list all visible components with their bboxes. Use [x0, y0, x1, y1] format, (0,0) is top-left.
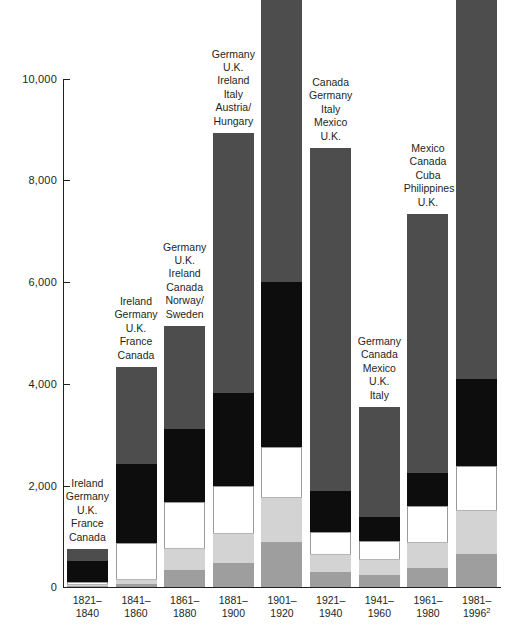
bar-segment-segment-5-top	[213, 133, 254, 393]
bar-segment-segment-1-bottom	[261, 542, 302, 587]
x-axis-label-4: 1881–1900	[209, 594, 258, 621]
x-axis-label-7: 1941–1960	[355, 594, 404, 621]
bar-18211840	[67, 549, 108, 587]
bar-segment-segment-1-bottom	[164, 570, 205, 587]
country-label: U.K.	[160, 254, 209, 267]
x-axis-label-8: 1961–1980	[404, 594, 453, 621]
country-label: Canada	[160, 281, 209, 294]
bar-caption-3: GermanyU.K.IrelandCanadaNorway/Sweden	[160, 241, 209, 321]
country-label: Philippines	[404, 182, 453, 195]
bar-segment-segment-4	[67, 561, 108, 582]
bar-segment-segment-1-bottom	[407, 568, 448, 587]
x-label-line-2: 1920	[258, 607, 307, 620]
bar-segment-segment-5-top	[407, 214, 448, 473]
y-tick-label-10000: 10,000	[22, 74, 57, 85]
bar-segment-segment-4	[213, 393, 254, 486]
x-label-line-2: 1860	[112, 607, 161, 620]
bar-segment-segment-4	[359, 517, 400, 541]
bar-segment-segment-4	[407, 473, 448, 506]
footnote-marker: 2	[486, 606, 490, 615]
country-label: Canada	[355, 348, 404, 361]
country-label: Canada	[63, 531, 112, 544]
bar-segment-segment-3	[213, 486, 254, 533]
bar-segment-segment-5-top	[116, 367, 157, 464]
bar-segment-segment-2	[261, 497, 302, 542]
country-label: Austria/	[209, 101, 258, 114]
x-axis-label-3: 1861–1880	[160, 594, 209, 621]
bar-segment-segment-3	[456, 466, 497, 510]
country-label: U.K.	[209, 61, 258, 74]
bar-caption-1: IrelandGermanyU.K.FranceCanada	[63, 477, 112, 544]
y-tick-label-2000: 2,000	[28, 481, 57, 492]
bar-segment-segment-4	[261, 282, 302, 447]
x-label-line-2: 1940	[306, 607, 355, 620]
x-axis-label-9: 1981–19962	[452, 594, 501, 621]
bar-segment-segment-3	[164, 502, 205, 548]
bar-caption-6: CanadaGermanyItalyMexicoU.K.	[306, 76, 355, 143]
bar-19811996	[456, 0, 497, 587]
bar-segment-segment-3	[310, 532, 351, 554]
country-label: U.K.	[355, 375, 404, 388]
bar-segment-segment-5-top	[359, 407, 400, 517]
bar-segment-segment-4	[116, 464, 157, 543]
x-label-line-1: 1981–	[452, 594, 501, 607]
x-label-line-2: 1840	[63, 607, 112, 620]
country-label: Cuba	[404, 169, 453, 182]
x-axis-label-6: 1921–1940	[306, 594, 355, 621]
country-label: Ireland	[209, 74, 258, 87]
country-label: Germany	[306, 89, 355, 102]
country-label: Italy	[306, 103, 355, 116]
immigration-stacked-bar-chart: 10,000 8,000 6,000 4,000 2,000 0 Ireland…	[0, 0, 509, 629]
country-label: Germany	[160, 241, 209, 254]
country-label: Mexico	[306, 116, 355, 129]
bar-18811900	[213, 133, 254, 587]
x-label-line-2: 1880	[160, 607, 209, 620]
bar-segment-segment-2	[359, 559, 400, 575]
x-axis-label-1: 1821–1840	[63, 594, 112, 621]
country-label: Sweden	[160, 308, 209, 321]
country-label: Germany	[63, 490, 112, 503]
bar-segment-segment-1-bottom	[116, 584, 157, 587]
bar-segment-segment-3	[261, 447, 302, 497]
x-label-line-1: 1881–	[209, 594, 258, 607]
country-label: Germany	[112, 308, 161, 321]
y-tick-label-4000: 4,000	[28, 379, 57, 390]
country-label: France	[112, 335, 161, 348]
country-label: Ireland	[160, 267, 209, 280]
bar-caption-8: MexicoCanadaCubaPhilippinesU.K.	[404, 142, 453, 209]
country-label: U.K.	[404, 196, 453, 209]
country-label: Italy	[355, 389, 404, 402]
country-label: U.K.	[306, 130, 355, 143]
bar-segment-segment-2	[164, 548, 205, 570]
bar-segment-segment-5-top	[310, 148, 351, 491]
x-label-line-1: 1961–	[404, 594, 453, 607]
bar-caption-2: IrelandGermanyU.K.FranceCanada	[112, 295, 161, 362]
bar-segment-segment-1-bottom	[213, 563, 254, 587]
bar-19211940	[310, 148, 351, 587]
bar-segment-segment-5-top	[67, 549, 108, 561]
country-label: France	[63, 517, 112, 530]
bar-segment-segment-2	[456, 510, 497, 554]
bar-18411860	[116, 367, 157, 587]
x-label-line-1: 1841–	[112, 594, 161, 607]
y-tick-label-6000: 6,000	[28, 277, 57, 288]
x-label-line-2: 19962	[452, 607, 501, 620]
y-tick-0	[63, 587, 70, 588]
bar-segment-segment-1-bottom	[359, 575, 400, 587]
bar-segment-segment-2	[213, 533, 254, 563]
x-axis-label-5: 1901–1920	[258, 594, 307, 621]
bar-segment-segment-4	[164, 429, 205, 502]
bar-segment-segment-5-top	[456, 0, 497, 379]
bar-segment-segment-4	[310, 491, 351, 532]
bar-segment-segment-2	[310, 554, 351, 572]
country-label: Ireland	[112, 295, 161, 308]
bar-segment-segment-5-top	[261, 0, 302, 282]
country-label: Norway/	[160, 294, 209, 307]
bar-segment-segment-1-bottom	[67, 586, 108, 587]
country-label: Germany	[209, 48, 258, 61]
bar-segment-segment-4	[456, 379, 497, 466]
x-label-line-2: 1960	[355, 607, 404, 620]
bar-segment-segment-5-top	[164, 326, 205, 429]
bar-segment-segment-2	[407, 542, 448, 568]
bar-caption-4: GermanyU.K.IrelandItalyAustria/Hungary	[209, 48, 258, 128]
